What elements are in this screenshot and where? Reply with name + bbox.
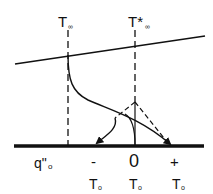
t-inf-subscript: ∞ [68, 23, 73, 30]
heat-transfer-diagram: T ∞ T* ∞ q" o - 0 + T o T o T o [0, 0, 213, 194]
t-inf-star-label: T* [128, 13, 143, 30]
t-o-minus-label: T [89, 176, 98, 192]
apex-right-arc [125, 114, 135, 145]
t-o-plus-subscript: o [181, 184, 185, 191]
temperature-profile-curve [68, 55, 170, 144]
t-o-minus-subscript: o [98, 184, 102, 191]
heat-flux-label: q" [34, 155, 47, 171]
sign-minus-label: - [91, 153, 96, 170]
sign-plus-label: + [170, 153, 179, 170]
t-inf-star-subscript: ∞ [145, 23, 150, 30]
t-o-zero-subscript: o [138, 184, 142, 191]
negative-profile-curve [97, 118, 116, 143]
heat-flux-subscript: o [48, 162, 53, 171]
t-inf-label: T [58, 13, 67, 30]
boundary-layer-edge-line [15, 36, 205, 64]
t-o-zero-label: T [129, 176, 138, 192]
sign-zero-label: 0 [129, 151, 139, 171]
t-o-plus-label: T [172, 176, 181, 192]
